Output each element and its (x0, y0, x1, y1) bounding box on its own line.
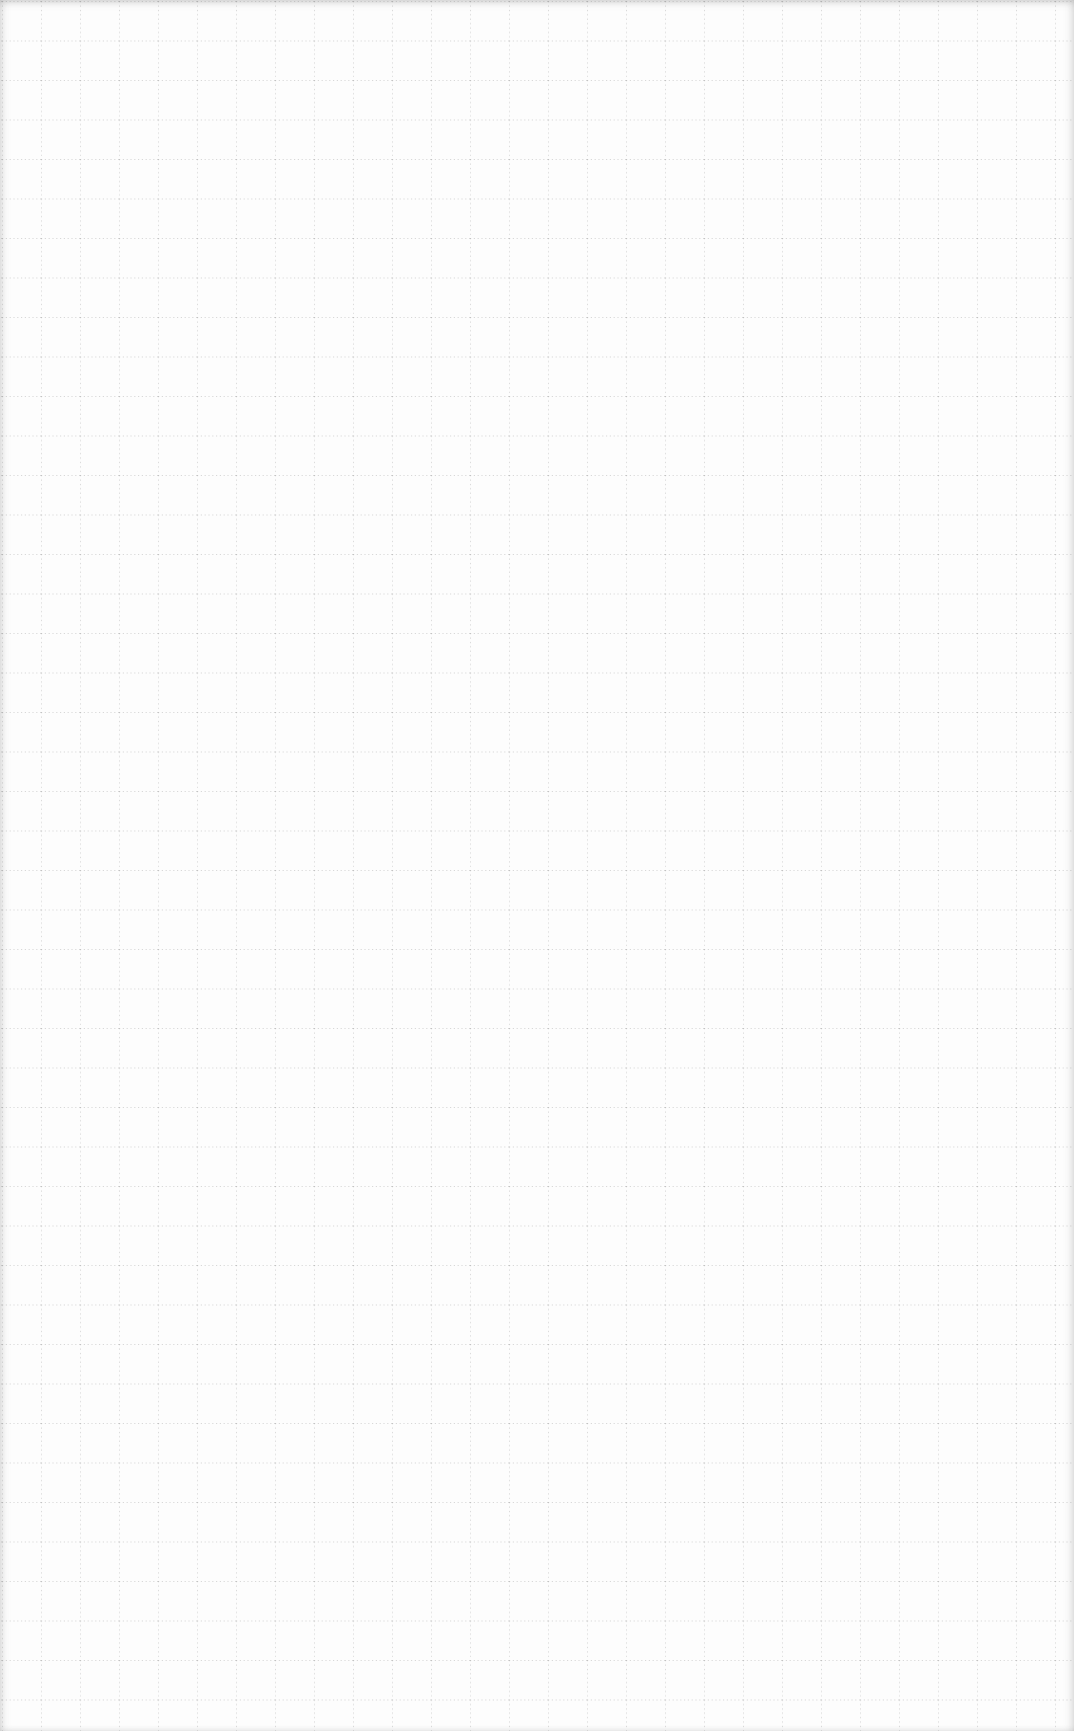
dotted-grid (0, 0, 1074, 1731)
grid-paper-sheet (0, 0, 1074, 1731)
